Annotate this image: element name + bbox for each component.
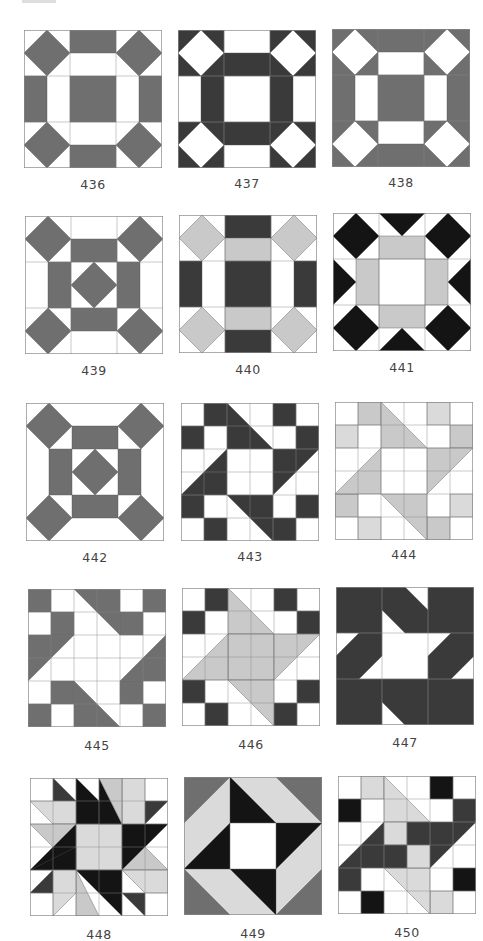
quilt-patch	[384, 822, 407, 845]
quilt-patch	[427, 402, 450, 425]
quilt-patch	[182, 611, 205, 634]
quilt-patch	[430, 776, 453, 799]
quilt-patch	[355, 75, 378, 121]
quilt-patch	[181, 426, 204, 449]
quilt-block-diagram	[335, 402, 473, 540]
quilt-patch	[72, 426, 118, 449]
quilt-patch	[424, 75, 447, 121]
block-number-label: 445	[28, 738, 166, 753]
quilt-patch	[230, 823, 276, 869]
quilt-patch	[296, 495, 319, 518]
quilt-patch	[294, 261, 317, 307]
quilt-block-438: 438	[332, 29, 470, 167]
quilt-patch	[274, 588, 297, 611]
block-number-label: 438	[332, 175, 470, 190]
quilt-block-449: 449	[184, 777, 322, 915]
quilt-patch	[225, 261, 271, 307]
quilt-patch	[118, 449, 141, 495]
quilt-patch	[205, 588, 228, 611]
quilt-patch	[204, 518, 227, 541]
quilt-patch	[297, 611, 320, 634]
quilt-patch	[205, 703, 228, 726]
quilt-patch	[428, 679, 474, 725]
quilt-block-448: 448	[30, 778, 168, 916]
quilt-patch	[453, 799, 476, 822]
quilt-patch	[270, 76, 293, 122]
quilt-patch	[384, 845, 407, 868]
quilt-patch	[407, 845, 430, 868]
quilt-patch	[48, 262, 71, 308]
page-header-fragment	[22, 0, 56, 3]
quilt-patch	[427, 517, 450, 540]
quilt-patch	[70, 76, 116, 122]
quilt-block-diagram	[184, 777, 322, 915]
quilt-block-diagram	[178, 30, 316, 168]
quilt-patch	[338, 799, 361, 822]
quilt-patch	[335, 494, 358, 517]
quilt-patch	[361, 891, 384, 914]
quilt-patch	[358, 402, 381, 425]
quilt-patch	[453, 868, 476, 891]
quilt-patch	[407, 822, 430, 845]
quilt-patch	[72, 495, 118, 518]
quilt-patch	[117, 262, 140, 308]
quilt-patch	[335, 425, 358, 448]
quilt-block-diagram	[182, 588, 320, 726]
block-number-label: 447	[336, 735, 474, 750]
quilt-block-diagram	[179, 215, 317, 353]
quilt-patch	[450, 494, 473, 517]
quilt-patch	[70, 145, 116, 168]
quilt-patch	[378, 52, 424, 75]
quilt-patch	[70, 30, 116, 53]
quilt-patch	[361, 776, 384, 799]
quilt-block-441: 441	[333, 213, 471, 351]
block-number-label: 440	[179, 362, 317, 377]
quilt-patch	[273, 518, 296, 541]
quilt-patch	[51, 681, 74, 704]
quilt-patch	[378, 121, 424, 144]
quilt-block-diagram	[24, 30, 162, 168]
quilt-block-diagram	[333, 213, 471, 351]
quilt-patch	[336, 587, 382, 633]
quilt-block-diagram	[336, 587, 474, 725]
quilt-patch	[71, 308, 117, 331]
quilt-block-437: 437	[178, 30, 316, 168]
quilt-patch	[24, 76, 47, 122]
quilt-block-444: 444	[335, 402, 473, 540]
quilt-block-diagram	[26, 403, 164, 541]
quilt-patch	[225, 330, 271, 353]
quilt-patch	[182, 680, 205, 703]
quilt-block-447: 447	[336, 587, 474, 725]
quilt-patch	[297, 680, 320, 703]
quilt-patch	[379, 236, 425, 259]
quilt-block-446: 446	[182, 588, 320, 726]
quilt-patch	[450, 425, 473, 448]
quilt-patch	[143, 704, 166, 727]
quilt-patch	[225, 215, 271, 238]
quilt-patch	[425, 259, 448, 305]
quilt-block-diagram	[25, 216, 163, 354]
quilt-patch	[120, 612, 143, 635]
quilt-block-diagram	[28, 589, 166, 727]
quilt-block-diagram	[30, 778, 168, 916]
quilt-patch	[224, 53, 270, 76]
quilt-block-436: 436	[24, 30, 162, 168]
quilt-patch	[428, 587, 474, 633]
quilt-patch	[181, 495, 204, 518]
quilt-patch	[28, 704, 51, 727]
block-number-label: 450	[338, 925, 476, 940]
quilt-patch	[296, 426, 319, 449]
quilt-block-442: 442	[26, 403, 164, 541]
block-number-label: 448	[30, 927, 168, 941]
quilt-patch	[273, 403, 296, 426]
quilt-patch	[356, 259, 379, 305]
quilt-block-catalog-page: 4364374384394404414424434444454464474484…	[0, 0, 483, 941]
block-number-label: 443	[181, 549, 319, 564]
block-number-label: 446	[182, 737, 320, 752]
block-number-label: 439	[25, 363, 163, 378]
block-number-label: 449	[184, 926, 322, 941]
quilt-patch	[71, 239, 117, 262]
quilt-patch	[179, 261, 202, 307]
quilt-block-445: 445	[28, 589, 166, 727]
quilt-patch	[379, 305, 425, 328]
